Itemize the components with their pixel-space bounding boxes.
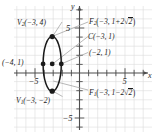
point-vertex-top	[50, 34, 55, 39]
label-covertex-left: (−4, 1)	[2, 59, 24, 67]
vertex-top-coords: (−3, 4)	[24, 18, 46, 27]
point-vertex-bottom	[50, 89, 55, 94]
label-center: C(−3, 1)	[88, 33, 115, 41]
y-axis-label: y	[71, 3, 75, 11]
focus-bottom-open-paren: (	[96, 87, 98, 98]
y-tick-label-neg5: −5	[63, 114, 73, 123]
focus-top-open-paren: (	[96, 16, 98, 27]
label-focus-bottom: F1(−3, 1−2√2)	[89, 88, 135, 97]
ellipse-figure: x y −5 5 5 −5 V2(−3, 4) V1(−3, −2) F2(−3…	[0, 0, 159, 136]
x-tick-label-neg5: −5	[29, 77, 39, 86]
focus-bottom-coords-prefix: −3, 1−2	[99, 88, 124, 97]
leader-center	[53, 37, 88, 64]
y-tick-label-5: 5	[66, 24, 70, 33]
x-tick-label-5: 5	[123, 77, 127, 86]
x-axis-label: x	[148, 72, 152, 80]
focus-top-close-paren: )	[133, 16, 135, 27]
leader-vertex-bottom	[54, 92, 63, 97]
center-coords: (−3, 1)	[93, 32, 115, 41]
point-covertex-left	[41, 62, 46, 67]
label-focus-top: F2(−3, 1+2√2)	[89, 17, 135, 26]
label-covertex-right: (−2, 1)	[89, 49, 111, 57]
leader-covertex-right	[62, 53, 88, 64]
focus-bottom-close-paren: )	[133, 87, 135, 98]
focus-top-coords-prefix: −3, 1+2	[99, 17, 124, 26]
point-covertex-right	[59, 62, 64, 67]
label-vertex-top: V2(−3, 4)	[17, 19, 46, 27]
vertex-bottom-coords: (−3, −2)	[23, 96, 50, 105]
point-center	[50, 62, 55, 67]
leader-focus-top	[53, 22, 88, 36]
label-vertex-bottom: V1(−3, −2)	[16, 97, 50, 105]
